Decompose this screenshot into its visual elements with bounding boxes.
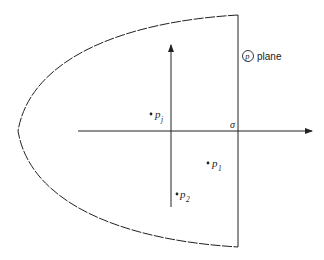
sigma-label: σ [230, 119, 236, 130]
point-p1: p 1 [207, 157, 222, 173]
point-label: p [179, 188, 186, 200]
plane-label: p plane [243, 51, 282, 63]
point-subscript: 2 [186, 195, 190, 204]
point-subscript: 1 [218, 164, 222, 173]
point-subscript: j [160, 115, 163, 124]
p-plane-diagram: σ p plane p j p 1 p 2 [0, 0, 324, 260]
point-p2: p 2 [176, 188, 190, 204]
point-label: p [211, 157, 218, 169]
point-label: p [154, 108, 161, 120]
plane-symbol: p [244, 51, 249, 61]
point-pj: p j [150, 108, 163, 124]
plane-text: plane [257, 51, 282, 62]
